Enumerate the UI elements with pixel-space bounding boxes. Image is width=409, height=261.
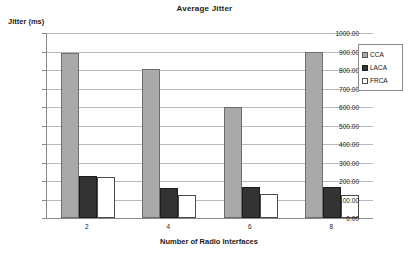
bar-cca-8 — [305, 52, 323, 218]
bar-cca-6 — [224, 107, 242, 218]
y-axis-tick-label: 800.00 — [315, 67, 359, 74]
chart-legend: CCALACAFRCA — [358, 44, 403, 91]
legend-item-cca[interactable]: CCA — [362, 48, 399, 61]
y-axis-tick-label: 900.00 — [315, 48, 359, 55]
bar-laca-4 — [160, 188, 178, 218]
y-axis-tick-label: 200.00 — [315, 178, 359, 185]
y-axis-tick-label: 100.00 — [315, 196, 359, 203]
bar-group — [210, 33, 292, 218]
y-axis-tick-mark — [42, 218, 46, 219]
legend-label: CCA — [370, 51, 384, 58]
y-axis-tick-label: 500.00 — [315, 122, 359, 129]
bar-frca-4 — [178, 195, 196, 218]
y-axis-tick-mark — [42, 89, 46, 90]
y-axis-tick-label: 0.00 — [315, 215, 359, 222]
x-axis-tick-label: 2 — [67, 223, 107, 230]
y-axis-tick-mark — [42, 107, 46, 108]
y-axis-tick-mark — [42, 70, 46, 71]
y-axis-tick-label: 600.00 — [315, 104, 359, 111]
y-axis-tick-mark — [42, 181, 46, 182]
y-axis-tick-mark — [42, 33, 46, 34]
y-axis-tick-mark — [42, 163, 46, 164]
bar-frca-2 — [97, 177, 115, 218]
legend-label: FRCA — [370, 77, 388, 84]
y-axis-tick-label: 700.00 — [315, 85, 359, 92]
legend-item-frca[interactable]: FRCA — [362, 74, 399, 87]
legend-item-laca[interactable]: LACA — [362, 61, 399, 74]
y-axis-title: Jitter (ms) — [8, 17, 44, 26]
bar-laca-2 — [79, 176, 97, 218]
y-axis-tick-mark — [42, 200, 46, 201]
bar-laca-6 — [242, 187, 260, 218]
bar-cca-4 — [142, 69, 160, 218]
bar-group — [47, 33, 129, 218]
y-axis-tick-mark — [42, 126, 46, 127]
bar-group — [129, 33, 211, 218]
bar-cca-2 — [61, 53, 79, 218]
legend-swatch-icon — [362, 65, 368, 71]
x-axis-tick-label: 4 — [148, 223, 188, 230]
average-jitter-bar-chart: Average Jitter Jitter (ms) 1000.00900.00… — [0, 0, 409, 261]
y-axis-tick-label: 1000.00 — [315, 30, 359, 37]
y-axis-tick-label: 400.00 — [315, 141, 359, 148]
y-axis-tick-label: 300.00 — [315, 159, 359, 166]
chart-title: Average Jitter — [0, 4, 409, 13]
x-axis-tick-label: 6 — [230, 223, 270, 230]
legend-swatch-icon — [362, 52, 368, 58]
y-axis-tick-mark — [42, 144, 46, 145]
legend-label: LACA — [370, 64, 387, 71]
cut-off-caption — [8, 255, 401, 261]
bar-frca-6 — [260, 194, 278, 218]
legend-swatch-icon — [362, 78, 368, 84]
x-axis-tick-label: 8 — [311, 223, 351, 230]
y-axis-tick-mark — [42, 52, 46, 53]
x-axis-title: Number of Radio Interfaces — [46, 237, 372, 246]
